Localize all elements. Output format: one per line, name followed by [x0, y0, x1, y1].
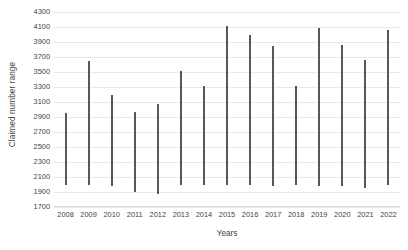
range-bar: [180, 71, 182, 186]
range-bar: [364, 60, 366, 188]
range-bar: [318, 28, 320, 186]
range-bar: [134, 112, 136, 192]
y-tick-label: 3500: [24, 68, 50, 76]
range-bar: [272, 46, 274, 186]
x-tick-label: 2009: [80, 210, 96, 220]
range-bar: [111, 95, 113, 186]
x-tick-label: 2012: [150, 210, 166, 220]
x-tick-label: 2019: [311, 210, 327, 220]
y-tick-label: 2900: [24, 113, 50, 121]
x-tick-label: 2017: [265, 210, 281, 220]
range-bar: [387, 30, 389, 185]
x-tick-label: 2010: [103, 210, 119, 220]
y-tick-label: 3300: [24, 83, 50, 91]
y-tick-label: 3900: [24, 38, 50, 46]
y-tick-label: 2100: [24, 173, 50, 181]
range-bar: [226, 26, 228, 185]
y-tick-label: 3100: [24, 98, 50, 106]
y-axis-tick-labels: 4300410039003700350033003100290027002500…: [24, 12, 50, 207]
y-tick-label: 4300: [24, 8, 50, 16]
range-bar: [157, 104, 159, 194]
range-bar: [249, 35, 251, 186]
gridline: [54, 207, 400, 208]
y-axis-title: Claimed number range: [2, 0, 24, 208]
gridline: [54, 12, 400, 13]
y-tick-label: 2500: [24, 143, 50, 151]
x-tick-label: 2008: [57, 210, 73, 220]
x-tick-label: 2016: [242, 210, 258, 220]
x-tick-label: 2013: [173, 210, 189, 220]
x-tick-label: 2015: [219, 210, 235, 220]
plot-area: [54, 12, 400, 207]
x-axis-title: Years: [54, 229, 400, 238]
x-axis-tick-labels: 2008200920102011201220132014201520162017…: [54, 210, 400, 222]
y-axis-title-text: Claimed number range: [9, 61, 18, 146]
x-tick-label: 2021: [357, 210, 373, 220]
range-bar: [341, 45, 343, 186]
range-bar-chart: Claimed number range 4300410039003700350…: [0, 0, 408, 250]
y-tick-label: 2300: [24, 158, 50, 166]
x-tick-label: 2020: [334, 210, 350, 220]
gridline: [54, 192, 400, 193]
range-bar: [65, 113, 67, 186]
y-tick-label: 1900: [24, 188, 50, 196]
x-tick-label: 2011: [127, 210, 143, 220]
range-bar: [88, 61, 90, 185]
y-tick-label: 1700: [24, 203, 50, 211]
x-tick-label: 2014: [196, 210, 212, 220]
range-bar: [295, 86, 297, 186]
y-tick-label: 2700: [24, 128, 50, 136]
range-bar: [203, 86, 205, 185]
y-tick-label: 4100: [24, 23, 50, 31]
y-tick-label: 3700: [24, 53, 50, 61]
x-tick-label: 2018: [288, 210, 304, 220]
x-tick-label: 2022: [380, 210, 396, 220]
